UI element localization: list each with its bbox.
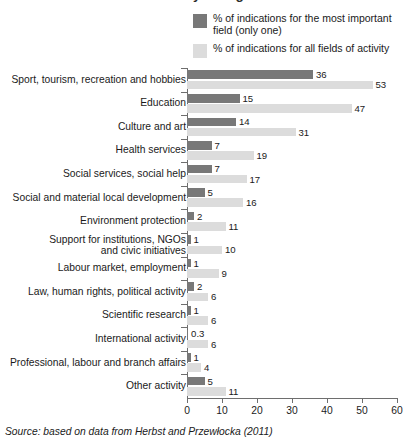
- bar-value-label: 11: [229, 221, 239, 232]
- bar-value-label: 4: [204, 362, 209, 373]
- bar-group: 26: [187, 280, 402, 304]
- x-axis-tick: [222, 398, 223, 403]
- bar-value-label: 1: [194, 305, 199, 316]
- category-label: Environment protection: [0, 215, 186, 226]
- category-label: Culture and art: [0, 121, 186, 132]
- category-label: Labour market, employment: [0, 263, 186, 274]
- x-axis-tick: [292, 398, 293, 403]
- bar-rect: [187, 70, 313, 79]
- bar-value-label: 5: [208, 187, 213, 198]
- bar-row: Labour market, employment19: [0, 257, 404, 281]
- chart-legend: % of indications for the most important …: [193, 13, 404, 64]
- bar-value-label: 2: [197, 211, 202, 222]
- bar-row: Social and material local development516: [0, 186, 404, 210]
- bar-rect: [187, 330, 188, 339]
- bar-value-label: 36: [316, 69, 327, 80]
- bar-secondary: 31: [187, 128, 309, 137]
- bar-primary: 5: [187, 188, 213, 197]
- bar-value-label: 53: [376, 79, 387, 90]
- bar-rect: [187, 198, 243, 207]
- x-axis-tick: [187, 398, 188, 403]
- bar-group: 14: [187, 351, 402, 375]
- legend-label-primary: % of indications for the most important …: [213, 13, 404, 37]
- bar-secondary: 11: [187, 222, 238, 231]
- category-label: Sport, tourism, recreation and hobbies: [0, 74, 186, 85]
- bar-group: 3653: [187, 68, 402, 92]
- bar-value-label: 10: [225, 244, 236, 255]
- category-label: Health services: [0, 145, 186, 156]
- bar-value-label: 5: [208, 376, 213, 387]
- bar-row: International activity0.36: [0, 327, 404, 351]
- bar-primary: 15: [187, 94, 253, 103]
- bar-rect: [187, 353, 191, 362]
- bar-secondary: 11: [187, 387, 238, 396]
- bar-value-label: 6: [211, 291, 216, 302]
- bar-primary: 0.3: [187, 330, 204, 339]
- bar-primary: 2: [187, 282, 202, 291]
- bar-group: 0.36: [187, 327, 402, 351]
- bar-rect: [187, 259, 191, 268]
- bar-primary: 14: [187, 118, 250, 127]
- x-axis-tick-label: 20: [251, 405, 262, 416]
- x-axis-tick: [257, 398, 258, 403]
- x-axis-tick-label: 0: [184, 405, 190, 416]
- bar-value-label: 1: [194, 352, 199, 363]
- bar-rect: [187, 81, 373, 90]
- category-label: Social services, social help: [0, 168, 186, 179]
- bar-rows: Sport, tourism, recreation and hobbies36…: [0, 68, 404, 398]
- bar-value-label: 17: [250, 174, 261, 185]
- bar-group: 110: [187, 233, 402, 257]
- bar-value-label: 0.3: [191, 328, 204, 339]
- bar-rect: [187, 141, 212, 150]
- bar-value-label: 11: [229, 386, 239, 397]
- category-label: Support for institutions, NGOs and civic…: [0, 233, 186, 256]
- bar-row: Education1547: [0, 92, 404, 116]
- x-axis-tick-label: 50: [356, 405, 367, 416]
- bar-value-label: 7: [215, 163, 220, 174]
- category-label: Other activity: [0, 380, 186, 391]
- legend-label-secondary: % of indications for all fields of activ…: [213, 43, 389, 55]
- bar-rect: [187, 94, 240, 103]
- legend-item-primary: % of indications for the most important …: [193, 13, 404, 37]
- bar-rect: [187, 165, 212, 174]
- bar-row: Social services, social help717: [0, 162, 404, 186]
- x-axis-tick-label: 40: [321, 405, 332, 416]
- bar-rect: [187, 175, 247, 184]
- bar-rect: [187, 151, 254, 160]
- category-label: Education: [0, 98, 186, 109]
- bar-value-label: 16: [246, 197, 257, 208]
- bar-rect: [187, 363, 201, 372]
- x-axis-tick-label: 30: [286, 405, 297, 416]
- bar-group: 19: [187, 257, 402, 281]
- bar-primary: 1: [187, 306, 199, 315]
- bar-primary: 7: [187, 165, 220, 174]
- bar-rect: [187, 387, 226, 396]
- bar-row: Support for institutions, NGOs and civic…: [0, 233, 404, 257]
- bar-row: Culture and art1431: [0, 115, 404, 139]
- bar-row: Environment protection211: [0, 209, 404, 233]
- bar-row: Scientific research16: [0, 304, 404, 328]
- bar-rect: [187, 293, 208, 302]
- legend-swatch-secondary: [193, 44, 207, 58]
- x-axis-tick: [327, 398, 328, 403]
- bar-value-label: 31: [299, 127, 310, 138]
- category-label: Professional, labour and branch affairs: [0, 357, 186, 368]
- bar-value-label: 19: [257, 150, 268, 161]
- bar-primary: 5: [187, 377, 213, 386]
- bar-group: 717: [187, 162, 402, 186]
- bar-rect: [187, 246, 222, 255]
- bar-rect: [187, 104, 352, 113]
- bar-group: 511: [187, 374, 402, 398]
- bar-secondary: 53: [187, 81, 386, 90]
- category-label: Scientific research: [0, 310, 186, 321]
- bar-row: Other activity511: [0, 374, 404, 398]
- bar-secondary: 6: [187, 340, 216, 349]
- x-axis-tick-label: 60: [391, 405, 402, 416]
- bar-group: 516: [187, 186, 402, 210]
- bar-rect: [187, 316, 208, 325]
- bar-value-label: 47: [355, 103, 366, 114]
- bar-rect: [187, 188, 205, 197]
- bar-value-label: 6: [211, 315, 216, 326]
- bar-rect: [187, 340, 208, 349]
- bar-rect: [187, 118, 236, 127]
